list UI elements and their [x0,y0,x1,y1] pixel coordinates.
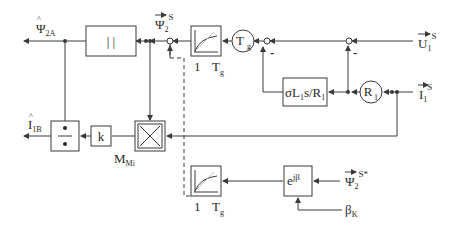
junction-dot [346,90,350,94]
divider-dot-top [63,126,67,130]
sum-junction-tg [264,38,270,44]
junction-dot [63,39,67,43]
hat-mark: ^ [29,112,33,121]
minus-sign-u: - [353,45,357,60]
junction-dot [144,39,148,43]
junction-dot [390,90,394,94]
lowpass-top-label-t: T [212,59,220,74]
abs-block-label: | | [107,34,115,49]
sum-junction-u [346,38,352,44]
lowpass-bottom-label-1: 1 [194,199,201,214]
junction-dot [148,39,152,43]
tg-circle-sub: g [247,42,251,51]
gain-k-label: k [98,129,105,144]
lowpass-bottom-label-t: T [212,199,220,214]
beta-input-line [298,198,342,210]
block-diagram: | | 1 T g T g - - σL1s/R1 R 1 MMi k [0,0,455,231]
minus-sign-tg: - [270,45,274,60]
beta-input-label: βK [345,202,358,219]
r1-circle-sub: 1 [374,93,378,102]
lowpass-bottom-label-g: g [220,208,224,217]
tg-circle-label: T [236,33,244,48]
hat-mark: ^ [37,15,41,24]
torque-label: MMi [114,151,136,168]
sigma-block-label: σL1s/R1 [285,85,325,102]
switch-dashed-line [170,44,190,196]
lowpass-top-label-g: g [220,68,224,77]
divider-dot-bottom [63,142,67,146]
lowpass-top-label-1: 1 [194,59,201,74]
switch-junction [167,38,173,44]
r1-circle-label: R [364,84,373,99]
